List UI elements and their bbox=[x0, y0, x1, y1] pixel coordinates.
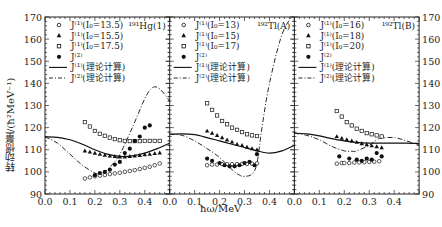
open-square-marker bbox=[138, 139, 141, 142]
open-square-marker bbox=[375, 134, 378, 137]
open-circle-marker bbox=[88, 176, 92, 180]
filled-circle-marker bbox=[370, 158, 374, 162]
open-square-marker bbox=[108, 136, 111, 139]
legend-filled-circle-icon bbox=[306, 55, 310, 59]
x-tick-label: 0.1 bbox=[62, 196, 77, 207]
legend-open-square-icon bbox=[182, 45, 185, 48]
x-tick-label: 0.0 bbox=[162, 196, 177, 207]
filled-circle-marker bbox=[138, 134, 142, 138]
open-circle-marker bbox=[335, 162, 339, 166]
filled-triangle-marker bbox=[370, 143, 374, 147]
filled-triangle-marker bbox=[255, 147, 259, 151]
panel-2: 0.00.10.20.30.4J⁽¹⁾(I₀=13)J⁽¹⁾(I₀=15)J⁽¹… bbox=[162, 13, 294, 207]
legend-label: J⁽¹⁾(I₀=15.5) bbox=[70, 31, 123, 41]
nucleus-label: ¹⁹²Tl(B) bbox=[382, 21, 415, 31]
y-tick-label: 150 bbox=[24, 56, 42, 67]
filled-circle-marker bbox=[380, 154, 384, 158]
filled-circle-marker bbox=[227, 164, 231, 168]
legend-filled-circle-icon bbox=[57, 55, 61, 59]
moment-of-inertia-chart: 9090100100110110120120130130140140150150… bbox=[0, 0, 442, 227]
filled-circle-marker bbox=[133, 139, 137, 143]
legend-open-circle-icon bbox=[182, 23, 186, 27]
x-tick-label: 0.3 bbox=[112, 196, 127, 207]
nucleus-label: ¹⁹¹Hg(1) bbox=[129, 21, 166, 31]
legend-open-circle-icon bbox=[57, 23, 61, 27]
filled-circle-marker bbox=[113, 162, 117, 166]
legend-label: J⁽¹⁾(I₀=15) bbox=[195, 31, 240, 41]
x-tick-label: 0.3 bbox=[362, 196, 377, 207]
x-tick-label: 0.4 bbox=[137, 196, 152, 207]
panel-1: 0.00.10.20.30.4J⁽¹⁾(I₀=13.5)J⁽¹⁾(I₀=15.5… bbox=[37, 17, 169, 207]
open-circle-marker bbox=[377, 159, 381, 163]
filled-triangle-marker bbox=[340, 136, 344, 140]
open-square-marker bbox=[158, 139, 161, 142]
nucleus-label: ¹⁹²Tl(A) bbox=[257, 21, 290, 31]
filled-circle-marker bbox=[365, 157, 369, 161]
filled-triangle-marker bbox=[379, 145, 383, 149]
open-square-marker bbox=[148, 139, 151, 142]
open-square-marker bbox=[235, 128, 238, 131]
filled-triangle-marker bbox=[210, 131, 214, 135]
x-tick-label: 0.1 bbox=[312, 196, 327, 207]
legend-filled-triangle-icon bbox=[306, 33, 311, 37]
y-tick-label: 170 bbox=[422, 12, 440, 23]
open-square-marker bbox=[380, 135, 383, 138]
legend-label: J⁽¹⁾(I₀=20) bbox=[319, 41, 364, 51]
open-square-marker bbox=[103, 134, 106, 137]
open-square-marker bbox=[345, 120, 348, 123]
legend-open-square-icon bbox=[57, 45, 60, 48]
legend-open-circle-icon bbox=[307, 23, 311, 27]
filled-triangle-marker bbox=[350, 139, 354, 143]
legend-filled-triangle-icon bbox=[57, 33, 62, 37]
filled-triangle-marker bbox=[245, 145, 249, 149]
legend-label: J⁽²⁾(理论计算) bbox=[195, 72, 250, 83]
open-circle-marker bbox=[205, 163, 209, 167]
open-square-marker bbox=[255, 134, 258, 137]
legend-filled-triangle-icon bbox=[181, 33, 186, 37]
open-circle-marker bbox=[158, 162, 162, 166]
y-tick-label: 100 bbox=[24, 166, 42, 177]
open-circle-marker bbox=[118, 171, 122, 175]
x-tick-label: 0.0 bbox=[287, 196, 302, 207]
open-square-marker bbox=[123, 139, 126, 142]
y-tick-label: 120 bbox=[422, 122, 440, 133]
open-circle-marker bbox=[347, 161, 351, 165]
open-square-marker bbox=[340, 115, 343, 118]
filled-triangle-marker bbox=[158, 151, 162, 155]
filled-triangle-marker bbox=[240, 143, 244, 147]
filled-triangle-marker bbox=[230, 140, 234, 144]
legend-label: J⁽¹⁾(I₀=17.5) bbox=[70, 41, 123, 51]
filled-circle-marker bbox=[118, 160, 122, 164]
panel-3: 0.00.10.20.30.4J⁽¹⁾(I₀=16)J⁽¹⁾(I₀=18)J⁽¹… bbox=[287, 17, 419, 207]
legend-label: J⁽¹⁾(I₀=18) bbox=[319, 31, 364, 41]
filled-circle-marker bbox=[252, 163, 256, 167]
y-tick-label: 160 bbox=[422, 34, 440, 45]
filled-circle-marker bbox=[148, 123, 152, 127]
figure: 9090100100110110120120130130140140150150… bbox=[0, 0, 442, 227]
filled-circle-marker bbox=[355, 158, 359, 162]
filled-triangle-marker bbox=[93, 151, 97, 155]
open-circle-marker bbox=[108, 172, 112, 176]
filled-triangle-marker bbox=[220, 135, 224, 139]
open-square-marker bbox=[88, 125, 91, 128]
filled-triangle-marker bbox=[205, 129, 209, 133]
y-tick-label: 160 bbox=[24, 34, 42, 45]
legend-label: J⁽¹⁾(I₀=13) bbox=[195, 20, 240, 30]
filled-triangle-marker bbox=[235, 142, 239, 146]
open-square-marker bbox=[215, 114, 218, 117]
y-tick-label: 90 bbox=[422, 189, 434, 200]
legend-label: J⁽²⁾ bbox=[319, 52, 331, 62]
filled-circle-marker bbox=[347, 157, 351, 161]
open-square-marker bbox=[93, 129, 96, 132]
panel-data bbox=[45, 87, 170, 180]
open-circle-marker bbox=[128, 169, 132, 173]
y-tick-label: 110 bbox=[422, 144, 440, 155]
legend-label: J⁽²⁾ bbox=[70, 52, 82, 62]
filled-circle-marker bbox=[123, 151, 127, 155]
open-square-marker bbox=[250, 134, 253, 137]
x-tick-label: 0.4 bbox=[387, 196, 402, 207]
filled-circle-marker bbox=[360, 159, 364, 163]
filled-circle-marker bbox=[222, 163, 226, 167]
open-square-marker bbox=[83, 120, 86, 123]
y-tick-label: 130 bbox=[422, 100, 440, 111]
